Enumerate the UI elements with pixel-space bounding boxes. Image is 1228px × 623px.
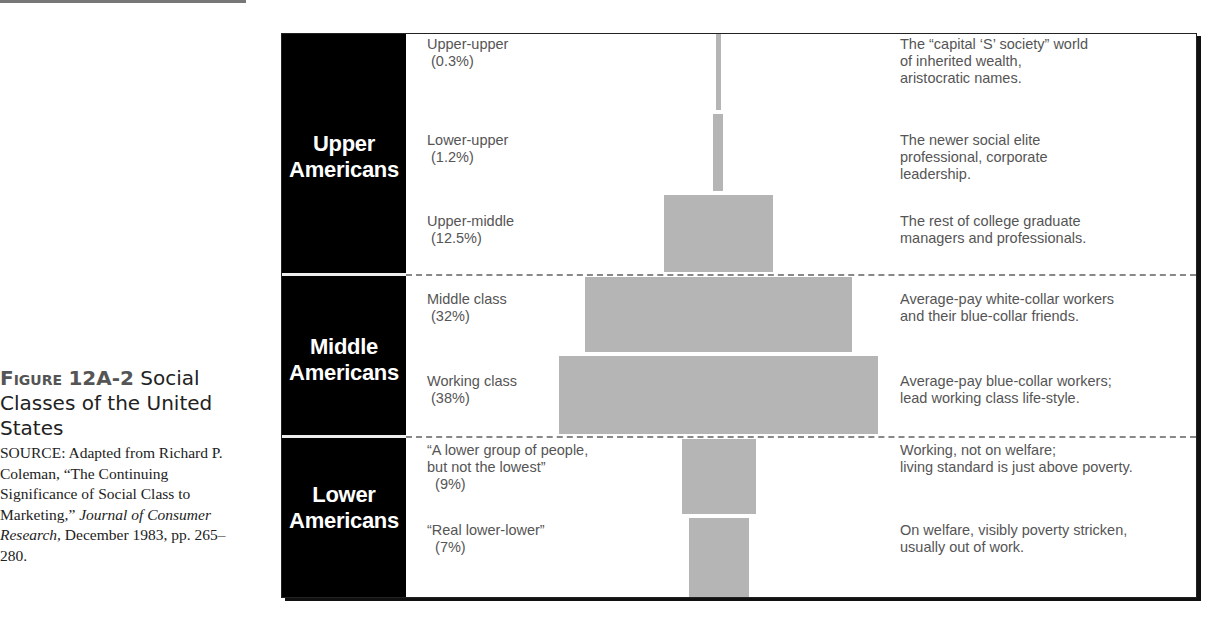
caption-source: SOURCE: Adapted from Richard P. Coleman,…	[0, 443, 245, 566]
class-description: Average-pay white-collar workers and the…	[900, 291, 1114, 325]
bar-lower-upper	[713, 114, 723, 191]
class-description: The newer social elite professional, cor…	[900, 132, 1048, 183]
class-label: Middle class (32%)	[427, 291, 507, 325]
top-rule	[0, 0, 246, 3]
group-label-middle: Middle Americans	[282, 334, 406, 386]
class-description: The “capital ‘S’ society” world of inher…	[900, 36, 1088, 87]
social-class-diagram: Upper Americans Middle Americans Lower A…	[281, 33, 1197, 598]
dashed-separator	[406, 274, 1196, 276]
bar-upper-upper	[716, 34, 721, 110]
class-label: Upper-middle (12.5%)	[427, 213, 514, 247]
class-label: Working class (38%)	[427, 373, 517, 407]
figure-caption: Figure 12A-2 Social Classes of the Unite…	[0, 366, 245, 566]
group-label-upper: Upper Americans	[282, 131, 406, 183]
figure-number: 12A-2	[68, 366, 134, 390]
bar-real-lower-lower	[689, 518, 749, 597]
bar-upper-middle	[664, 195, 773, 272]
class-description: Average-pay blue-collar workers; lead wo…	[900, 373, 1112, 407]
class-label: Upper-upper (0.3%)	[427, 36, 508, 70]
group-separator	[282, 273, 406, 276]
class-description: The rest of college graduate managers an…	[900, 213, 1086, 247]
figure-label: Figure	[0, 366, 62, 390]
class-description: Working, not on welfare; living standard…	[900, 442, 1133, 476]
caption-title: Figure 12A-2 Social Classes of the Unite…	[0, 366, 245, 441]
class-label: “A lower group of people, but not the lo…	[427, 442, 588, 493]
class-label: “Real lower-lower” (7%)	[427, 522, 545, 556]
group-label-lower: Lower Americans	[282, 482, 406, 534]
bar-middle-class	[585, 277, 852, 352]
class-description: On welfare, visibly poverty stricken, us…	[900, 522, 1127, 556]
bar-working-class	[559, 356, 878, 434]
group-separator	[282, 435, 406, 438]
bar-lower-group	[682, 439, 756, 514]
class-label: Lower-upper (1.2%)	[427, 132, 508, 166]
dashed-separator	[406, 436, 1196, 438]
